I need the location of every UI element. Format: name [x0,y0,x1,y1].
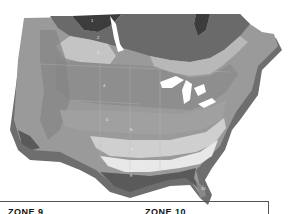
hardiness-zone-map [0,0,296,214]
zone-marker-8: 8 [140,162,142,167]
legend-zone-10: ZONE 10 [145,207,186,214]
zone-marker-10: 10 [201,186,205,191]
zone-marker-7: 7 [130,147,132,152]
zone-marker-3: 3 [97,50,99,55]
zone-marker-1: 1 [91,18,93,23]
zone-marker-5: 5 [106,117,108,122]
zone-marker-4: 4 [103,83,105,88]
zone-marker-9: 9 [130,173,132,178]
zone-marker-6: 6 [130,127,132,132]
zone-marker-2: 2 [97,35,99,40]
legend-zone-9: ZONE 9 [8,207,44,214]
